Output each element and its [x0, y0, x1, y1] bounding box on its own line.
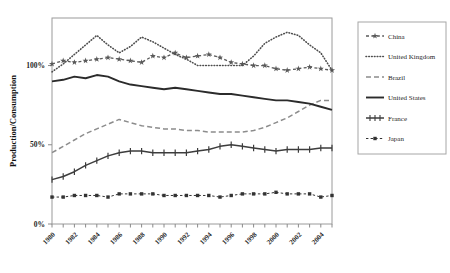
x-axis-ticks [52, 224, 332, 228]
data-point-marker [151, 192, 154, 195]
legend: ChinaUnited KingdomBrazilUnited StatesFr… [358, 22, 446, 154]
data-point-marker [127, 58, 133, 64]
data-point-marker [129, 192, 132, 195]
series-france [52, 142, 332, 183]
series-united-kingdom [52, 32, 332, 72]
x-tick-label: 1982 [64, 230, 80, 246]
series-line [52, 100, 332, 152]
legend-label: Brazil [388, 74, 405, 82]
legend-label: United States [388, 94, 426, 102]
data-point-marker [83, 58, 89, 64]
data-point-marker [140, 192, 143, 195]
data-point-marker [297, 192, 300, 195]
legend-label: United Kingdom [388, 53, 436, 61]
data-point-marker [174, 194, 177, 197]
data-point-marker [252, 192, 255, 195]
x-tick-label: 1988 [131, 230, 147, 246]
y-axis-ticks [48, 66, 52, 224]
x-axis-tick-labels: 1980198219841986198819901992199419961998… [41, 230, 326, 246]
x-tick-label: 2002 [288, 230, 304, 246]
x-tick-label: 1996 [221, 230, 237, 246]
data-point-marker [106, 195, 109, 198]
legend-marker [373, 137, 376, 140]
x-tick-label: 1992 [176, 230, 192, 246]
x-tick-label: 1998 [243, 230, 259, 246]
data-series-group [49, 32, 335, 199]
x-tick-label: 2004 [310, 230, 326, 246]
legend-label: France [388, 115, 407, 123]
data-point-marker [196, 194, 199, 197]
data-point-marker [230, 194, 233, 197]
data-point-marker [84, 194, 87, 197]
data-point-marker [318, 66, 324, 72]
x-tick-label: 1994 [198, 230, 214, 246]
series-china [49, 50, 335, 73]
data-point-marker [263, 192, 266, 195]
data-point-marker [330, 194, 333, 197]
x-tick-label: 1990 [153, 230, 169, 246]
legend-label: China [388, 33, 406, 41]
series-line [52, 145, 332, 180]
data-point-marker [71, 59, 77, 65]
data-point-marker [185, 194, 188, 197]
data-point-marker [286, 192, 289, 195]
data-point-marker [308, 192, 311, 195]
data-point-marker [95, 194, 98, 197]
data-point-marker [118, 192, 121, 195]
production-consumption-line-chart: 0%50%100% 198019821984198619881990199219… [0, 0, 450, 273]
y-axis-title: Production/Consumption [8, 75, 18, 167]
data-point-marker [274, 191, 277, 194]
series-line [52, 53, 332, 70]
series-line [52, 75, 332, 110]
x-tick-label: 1980 [41, 230, 57, 246]
data-point-marker [241, 192, 244, 195]
data-point-marker [150, 53, 156, 59]
x-tick-label: 2000 [265, 230, 281, 246]
y-tick-label: 0% [34, 220, 45, 229]
data-point-marker [207, 194, 210, 197]
legend-label: Japan [388, 135, 404, 143]
data-point-marker [50, 195, 53, 198]
x-tick-label: 1984 [86, 230, 102, 246]
plot-frame [52, 18, 332, 224]
data-point-marker [217, 54, 223, 60]
y-tick-label: 50% [30, 140, 45, 149]
series-line [52, 192, 332, 197]
series-brazil [52, 100, 332, 152]
data-point-marker [162, 194, 165, 197]
data-point-marker [73, 194, 76, 197]
chart-container: 0%50%100% 198019821984198619881990199219… [0, 0, 450, 273]
series-line [52, 32, 332, 72]
data-point-marker [62, 195, 65, 198]
data-point-marker [319, 195, 322, 198]
data-point-marker [206, 51, 212, 57]
y-tick-label: 100% [26, 61, 45, 70]
data-point-marker [218, 195, 221, 198]
data-point-marker [161, 54, 167, 60]
x-tick-label: 1986 [109, 230, 125, 246]
series-japan [50, 191, 333, 199]
y-axis-tick-labels: 0%50%100% [26, 61, 45, 228]
series-united-states [52, 75, 332, 110]
